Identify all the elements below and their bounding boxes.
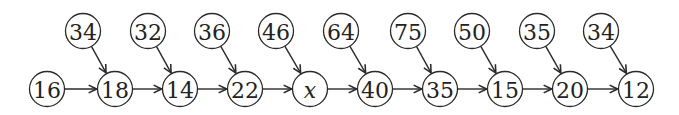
bottom-node: 15: [488, 72, 523, 107]
node-label: 75: [394, 20, 422, 45]
node-label: 46: [262, 20, 290, 45]
nodes-layer: 16181422x4035152012343236466475503534: [30, 14, 654, 107]
number-chain-diagram: 16181422x4035152012343236466475503534: [0, 0, 679, 115]
top-node: 50: [455, 14, 490, 49]
bottom-node: x: [293, 72, 328, 107]
diagonal-arrow: [221, 46, 236, 73]
node-label: 15: [491, 78, 519, 103]
node-label: 16: [33, 78, 61, 103]
top-node: 32: [131, 14, 166, 49]
node-label: 34: [69, 20, 97, 45]
bottom-node: 22: [228, 72, 263, 107]
node-label: 35: [523, 20, 551, 45]
node-label: 32: [134, 20, 162, 45]
node-label: 12: [622, 78, 650, 103]
node-label: x: [304, 78, 317, 103]
node-label: 34: [587, 20, 615, 45]
node-label: 50: [458, 20, 486, 45]
bottom-node: 14: [163, 72, 198, 107]
diagonal-arrow: [350, 46, 366, 73]
node-label: 14: [166, 78, 194, 103]
node-label: 64: [327, 20, 355, 45]
bottom-node: 16: [30, 72, 65, 107]
arrows-layer: [65, 46, 627, 89]
node-label: 36: [198, 20, 226, 45]
diagonal-arrow: [610, 46, 626, 73]
bottom-node: 12: [619, 72, 654, 107]
node-label: 20: [556, 78, 584, 103]
diagonal-arrow: [285, 46, 301, 73]
diagonal-arrow: [546, 46, 561, 73]
bottom-node: 40: [358, 72, 393, 107]
node-label: 40: [361, 78, 389, 103]
top-node: 64: [324, 14, 359, 49]
top-node: 46: [259, 14, 294, 49]
node-label: 35: [426, 78, 454, 103]
diagonal-arrow: [416, 46, 431, 72]
node-label: 22: [231, 78, 259, 103]
top-node: 34: [66, 14, 101, 49]
bottom-node: 35: [423, 72, 458, 107]
diagonal-arrow: [481, 46, 496, 73]
top-node: 35: [520, 14, 555, 49]
top-node: 34: [584, 14, 619, 49]
top-node: 36: [195, 14, 230, 49]
diagonal-arrow: [91, 46, 106, 72]
top-node: 75: [391, 14, 426, 49]
bottom-node: 20: [553, 72, 588, 107]
node-label: 18: [101, 78, 129, 103]
bottom-node: 18: [98, 72, 133, 107]
diagonal-arrow: [156, 46, 171, 72]
